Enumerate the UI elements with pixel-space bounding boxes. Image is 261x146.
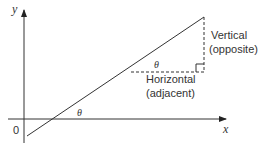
right-angle-marker (196, 64, 204, 72)
vertical-label-line2: (opposite) (209, 43, 258, 56)
theta-triangle-angle: θ (154, 58, 159, 71)
theta-axis-angle: θ (77, 106, 82, 119)
vertical-label-line1: Vertical (211, 29, 247, 42)
diagram-canvas (0, 0, 261, 146)
horizontal-label-line1: Horizontal (146, 73, 196, 86)
y-axis-label: y (12, 3, 17, 16)
origin-label: 0 (13, 124, 19, 137)
x-axis-label: x (223, 123, 228, 136)
horizontal-label-line2: (adjacent) (146, 87, 195, 100)
